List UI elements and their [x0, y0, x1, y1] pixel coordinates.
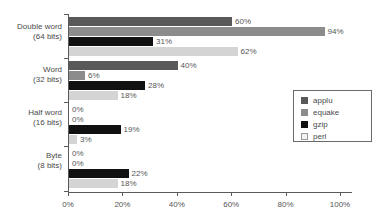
bar-value-applu-byte: 0% — [72, 149, 84, 158]
category-label-half-word: Half word (16 bits) — [28, 108, 62, 128]
bar-gzip-byte — [69, 169, 129, 178]
y-axis-tick — [64, 102, 68, 103]
x-axis-tick-label: 60% — [223, 200, 239, 209]
legend-item-gzip: gzip — [301, 119, 328, 130]
bar-value-equake-double-word: 94% — [328, 27, 344, 36]
bar-equake-double-word — [69, 27, 325, 36]
legend-label-perl: perl — [313, 132, 326, 141]
legend-swatch-equake — [301, 109, 308, 116]
category-label-line1: Word — [33, 65, 62, 75]
bar-value-perl-half-word: 3% — [80, 135, 92, 144]
bar-value-gzip-double-word: 31% — [156, 37, 172, 46]
x-axis-tick-label: 40% — [169, 200, 185, 209]
category-label-line1: Half word — [28, 108, 62, 118]
bar-value-applu-double-word: 60% — [235, 17, 251, 26]
x-axis-tick — [122, 192, 123, 196]
y-axis-tick — [64, 146, 68, 147]
category-label-line2: (32 bits) — [33, 75, 62, 85]
x-axis-tick-label: 0% — [62, 200, 74, 209]
category-label-word: Word (32 bits) — [33, 65, 62, 85]
bar-chart: Double word (64 bits) Word (32 bits) Hal… — [0, 0, 381, 222]
category-label-line2: (8 bits) — [38, 161, 62, 171]
bar-value-equake-half-word: 0% — [72, 115, 84, 124]
legend-item-perl: perl — [301, 131, 326, 142]
bar-value-gzip-word: 28% — [148, 81, 164, 90]
bar-value-applu-word: 40% — [181, 61, 197, 70]
legend-swatch-applu — [301, 97, 308, 104]
bar-applu-word — [69, 61, 178, 70]
legend-swatch-perl — [301, 133, 308, 140]
legend-swatch-gzip — [301, 121, 308, 128]
y-axis-tick — [64, 58, 68, 59]
bar-value-applu-half-word: 0% — [72, 105, 84, 114]
bar-value-gzip-half-word: 19% — [124, 125, 140, 134]
bar-perl-byte — [69, 179, 118, 188]
x-axis-line — [68, 192, 352, 193]
bar-value-perl-word: 18% — [121, 91, 137, 100]
legend-item-applu: applu — [301, 95, 333, 106]
x-axis-tick — [68, 192, 69, 196]
legend-label-applu: applu — [313, 96, 333, 105]
x-axis-tick-label: 100% — [330, 200, 350, 209]
bar-perl-double-word — [69, 47, 238, 56]
category-label-double-word: Double word (64 bits) — [17, 22, 62, 42]
category-label-byte: Byte (8 bits) — [38, 151, 62, 171]
bar-gzip-double-word — [69, 37, 153, 46]
x-axis-tick-label: 80% — [278, 200, 294, 209]
legend-label-equake: equake — [313, 108, 339, 117]
chart-legend: applu equake gzip perl — [293, 90, 372, 142]
bar-gzip-half-word — [69, 125, 121, 134]
x-axis-tick — [286, 192, 287, 196]
legend-label-gzip: gzip — [313, 120, 328, 129]
category-label-line1: Double word — [17, 22, 62, 32]
bar-value-equake-word: 6% — [88, 71, 100, 80]
x-axis-tick-label: 20% — [114, 200, 130, 209]
bar-perl-half-word — [69, 135, 77, 144]
bar-value-perl-double-word: 62% — [241, 47, 257, 56]
category-label-line2: (64 bits) — [17, 32, 62, 42]
bar-perl-word — [69, 91, 118, 100]
y-axis-tick — [64, 14, 68, 15]
x-axis-tick — [177, 192, 178, 196]
x-axis-tick — [231, 192, 232, 196]
bar-value-perl-byte: 18% — [121, 179, 137, 188]
bar-value-equake-byte: 0% — [72, 159, 84, 168]
category-label-line1: Byte — [38, 151, 62, 161]
x-axis-tick — [340, 192, 341, 196]
bar-value-gzip-byte: 22% — [132, 169, 148, 178]
bar-equake-word — [69, 71, 85, 80]
legend-item-equake: equake — [301, 107, 339, 118]
category-label-line2: (16 bits) — [28, 118, 62, 128]
bar-applu-double-word — [69, 17, 232, 26]
bar-gzip-word — [69, 81, 145, 90]
